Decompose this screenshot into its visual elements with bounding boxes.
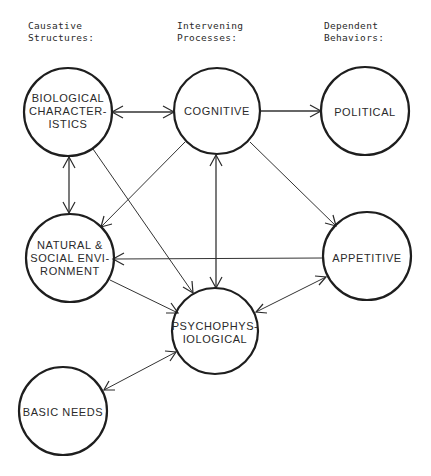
node-psychophysiological: PSYCHOPHYS- IOLOGICAL	[172, 288, 259, 374]
node-label: ISTICS	[48, 118, 87, 130]
node-label: COGNITIVE	[184, 105, 250, 117]
node-political: POLITICAL	[321, 67, 409, 155]
edge-cognitive-psychophysiological	[210, 155, 222, 288]
node-natural-social-environment: NATURAL & SOCIAL ENVI- RONMENT	[26, 214, 114, 302]
edge-psychophysiological-appetitive	[256, 276, 326, 313]
node-label: BIOLOGICAL	[32, 92, 105, 104]
node-label: IOLOGICAL	[183, 333, 248, 345]
node-label: POLITICAL	[334, 106, 396, 118]
edge-cognitive-natural	[101, 142, 185, 227]
edge-biological-cognitive	[112, 106, 174, 118]
node-label: APPETITIVE	[332, 252, 402, 264]
node-appetitive: APPETITIVE	[323, 212, 411, 300]
node-label: CHARACTER-	[29, 105, 107, 117]
edge-psychophysiological-basicneeds	[104, 351, 176, 390]
node-biological-characteristics: BIOLOGICAL CHARACTER- ISTICS	[24, 68, 112, 156]
node-label: BASIC NEEDS	[23, 406, 104, 418]
edge-cognitive-appetitive	[250, 142, 336, 226]
edge-natural-psychophysiological	[110, 280, 178, 313]
node-cognitive: COGNITIVE	[174, 68, 260, 154]
node-label: PSYCHOPHYS-	[172, 320, 259, 332]
causal-diagram: BIOLOGICAL CHARACTER- ISTICS COGNITIVE P…	[0, 0, 431, 476]
edge-biological-natural	[63, 157, 75, 213]
edge-cognitive-political	[260, 105, 321, 117]
node-label: SOCIAL ENVI-	[30, 252, 110, 264]
edge-biological-psychophysiological	[93, 149, 193, 293]
edge-appetitive-natural	[113, 253, 323, 265]
node-basic-needs: BASIC NEEDS	[19, 367, 107, 455]
node-label: NATURAL &	[37, 239, 103, 251]
node-label: RONMENT	[40, 265, 100, 277]
